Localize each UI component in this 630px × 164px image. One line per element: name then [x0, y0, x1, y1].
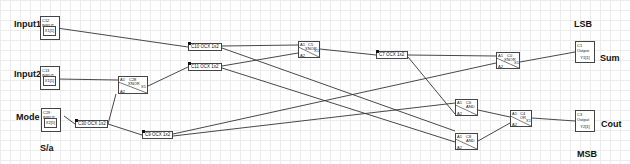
- gate-in2: A2: [512, 122, 517, 127]
- input-block-c12[interactable]: C12 INPUT X1[1]: [40, 16, 60, 40]
- gate-out: X1: [314, 48, 319, 53]
- gate-out: X1: [514, 60, 519, 65]
- schematic-canvas[interactable]: Input1 Input2 Mode S/a LSB MSB Sum Cout …: [0, 0, 630, 164]
- gate-c8-and[interactable]: A1 C8 AND A2: [455, 133, 478, 150]
- gate-in1: A1: [512, 111, 517, 116]
- gate-in1: A1: [457, 134, 462, 139]
- gate-c28-xnor[interactable]: A1 C28 XNOR X1 A2: [118, 76, 148, 94]
- delay-c9[interactable]: C9 OCX 1x2: [142, 131, 173, 139]
- gate-type: AND: [466, 138, 474, 143]
- input-port: X1[1]: [43, 76, 56, 86]
- input-port: X2[1]: [44, 118, 57, 128]
- gate-c0-xnor[interactable]: A1 C0 XNOR X1 A2: [496, 52, 520, 69]
- delay-c11[interactable]: C11 OCX 1x2: [188, 63, 222, 71]
- delay-c30[interactable]: C30 OCX 1x2: [75, 120, 108, 128]
- output-block-type: Output: [577, 117, 593, 122]
- gate-out: X1: [526, 118, 531, 123]
- output-port: Y1[1]: [577, 55, 593, 60]
- mode-label: Mode: [16, 112, 40, 122]
- gate-in2: A2: [498, 64, 503, 69]
- gate-in1: A1: [120, 77, 125, 82]
- input-block-c29[interactable]: C29 INPUT X2[1]: [41, 108, 61, 132]
- input1-label: Input1: [14, 19, 41, 29]
- delay-c10[interactable]: C10 OCX 1x2: [188, 43, 222, 51]
- input2-label: Input2: [14, 69, 41, 79]
- msb-label: MSB: [577, 149, 597, 159]
- gate-in2: A2: [120, 89, 125, 94]
- lsb-label: LSB: [574, 19, 592, 29]
- gate-in2: A2: [457, 145, 462, 150]
- delay-c7[interactable]: C7 OCX 1x2: [376, 51, 408, 59]
- gate-in2: A2: [300, 53, 305, 58]
- output-port: Y2[1]: [577, 124, 593, 129]
- gate-in1: A1: [457, 100, 462, 105]
- output-block-c1[interactable]: C1 Output Y1[1]: [575, 41, 595, 63]
- sa-label: S/a: [40, 143, 54, 153]
- gate-c4-or[interactable]: A1 C4 OR X1 A2: [510, 110, 532, 127]
- wires: [0, 0, 630, 164]
- input-block-c13[interactable]: C13 INPUT X1[1]: [40, 66, 60, 90]
- gate-c5-xnor[interactable]: A1 C5 XNOR X1 A2: [298, 41, 320, 58]
- cout-label: Cout: [601, 119, 622, 129]
- gate-c6-and[interactable]: A1 C6 AND A2: [455, 99, 478, 116]
- gate-in1: A1: [498, 53, 503, 58]
- gate-type: AND: [466, 104, 474, 109]
- output-block-c3[interactable]: C3 Output Y2[1]: [575, 110, 595, 132]
- input-port: X1[1]: [43, 26, 56, 36]
- gate-type: XNOR: [128, 81, 140, 86]
- gate-out: X1: [141, 84, 146, 89]
- output-block-type: Output: [577, 48, 593, 53]
- gate-in2: A2: [457, 111, 462, 116]
- sum-label: Sum: [600, 53, 620, 63]
